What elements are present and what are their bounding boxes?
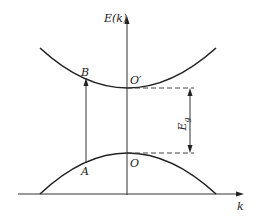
point-b-label: B bbox=[80, 66, 89, 79]
svg-text:Eg: Eg bbox=[176, 117, 191, 131]
point-a-label: A bbox=[80, 165, 89, 178]
band-diagram: E(k) k B O′ A O Eg bbox=[0, 0, 257, 220]
k-axis-label: k bbox=[237, 200, 244, 213]
valence-band-curve bbox=[40, 153, 216, 194]
point-o-label: O bbox=[130, 157, 139, 170]
conduction-band-curve bbox=[40, 48, 216, 88]
point-o-prime-label: O′ bbox=[130, 74, 142, 87]
band-diagram-svg: E(k) k B O′ A O Eg bbox=[0, 0, 257, 220]
energy-axis-label: E(k) bbox=[103, 12, 127, 25]
band-gap-label-sub: g bbox=[182, 117, 191, 122]
band-gap-label: Eg bbox=[176, 117, 191, 131]
band-gap-label-main: E bbox=[176, 123, 189, 132]
